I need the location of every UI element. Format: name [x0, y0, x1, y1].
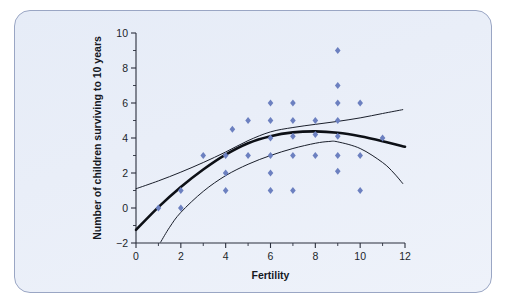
scatter-point [230, 126, 236, 133]
scatter-point [290, 99, 296, 106]
x-tick-label: 4 [223, 250, 229, 262]
scatter-point [290, 152, 296, 159]
scatter-point [335, 152, 341, 159]
scatter-point [335, 99, 341, 106]
scatter-point [268, 117, 274, 124]
y-tick-label: 4 [122, 132, 128, 144]
x-tick-label: 12 [399, 250, 411, 262]
y-axis-ticks [131, 33, 136, 243]
x-tick-label: 2 [178, 250, 184, 262]
scatter-plot-svg: −20246810 024681012 Fertility Number of … [0, 0, 507, 305]
scatter-point [357, 187, 363, 194]
scatter-point [268, 187, 274, 194]
lower-confidence-band [161, 141, 403, 242]
y-tick-label: −2 [116, 237, 128, 249]
y-tick-label: 6 [122, 97, 128, 109]
scatter-point [223, 169, 229, 176]
plot-stage: −20246810 024681012 Fertility Number of … [0, 0, 507, 305]
scatter-point [245, 117, 251, 124]
y-axis-tick-labels: −20246810 [116, 27, 128, 249]
y-tick-label: 8 [122, 62, 128, 74]
scatter-point [245, 152, 251, 159]
scatter-point [313, 117, 319, 124]
scatter-point [357, 99, 363, 106]
x-tick-label: 6 [268, 250, 274, 262]
x-axis-tick-labels: 024681012 [133, 250, 411, 262]
x-tick-label: 8 [312, 250, 318, 262]
scatter-point [268, 152, 274, 159]
scatter-point [335, 117, 341, 124]
x-axis-ticks [136, 243, 405, 248]
y-tick-label: 10 [116, 27, 128, 39]
x-tick-label: 0 [133, 250, 139, 262]
scatter-point [223, 187, 229, 194]
y-tick-label: 0 [122, 202, 128, 214]
scatter-point [268, 169, 274, 176]
scatter-point [335, 168, 341, 175]
y-tick-label: 2 [122, 167, 128, 179]
scatter-point [313, 152, 319, 159]
scatter-point [290, 117, 296, 124]
scatter-point [335, 82, 341, 89]
scatter-point [268, 99, 274, 106]
scatter-points-group [156, 47, 386, 212]
x-tick-label: 10 [354, 250, 366, 262]
scatter-point [200, 152, 206, 159]
y-axis-title: Number of children surviving to 10 years [91, 36, 103, 240]
scatter-point [290, 187, 296, 194]
axis-group: −20246810 024681012 [116, 27, 411, 262]
x-axis-title: Fertility [252, 269, 290, 281]
scatter-point [357, 152, 363, 159]
fitted-quadratic [136, 131, 405, 230]
scatter-point [335, 47, 341, 54]
